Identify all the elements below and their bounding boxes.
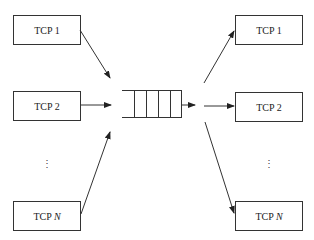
right-node-tcp-2: TCP 2 xyxy=(236,93,303,122)
right-ellipsis: ⋮ xyxy=(264,158,274,169)
node-label-suffix: N xyxy=(275,211,284,222)
left-ellipsis: ⋮ xyxy=(42,158,52,169)
left-node-tcp-n: TCP N xyxy=(14,202,81,231)
svg-text:TCP N: TCP N xyxy=(255,211,283,222)
node-label-prefix: TCP xyxy=(255,211,275,222)
right-node-tcp-1: TCP 1 xyxy=(236,16,303,45)
svg-text:TCP N: TCP N xyxy=(33,211,61,222)
arrow-tcp1-to-queue xyxy=(80,30,110,78)
node-label-prefix: TCP xyxy=(33,211,53,222)
svg-text:TCP 1: TCP 1 xyxy=(256,25,281,36)
node-label: TCP 1 xyxy=(34,25,59,36)
svg-text:TCP 1: TCP 1 xyxy=(34,25,59,36)
left-node-tcp-1: TCP 1 xyxy=(14,16,81,45)
node-label: TCP 1 xyxy=(256,25,281,36)
arrow-queue-to-tcpn xyxy=(205,122,234,213)
svg-text:TCP 2: TCP 2 xyxy=(256,102,281,113)
right-node-tcp-n: TCP N xyxy=(236,202,303,231)
node-label: TCP 2 xyxy=(256,102,281,113)
queue xyxy=(122,90,182,118)
node-label-suffix: N xyxy=(53,211,62,222)
arrow-tcpn-to-queue xyxy=(81,132,110,214)
node-label: TCP 2 xyxy=(34,101,59,112)
left-node-tcp-2: TCP 2 xyxy=(14,92,81,121)
tcp-queue-diagram: TCP 1 TCP 2 ⋮ TCP N TCP 1 TCP 2 ⋮ TCP N xyxy=(0,0,314,240)
svg-text:TCP 2: TCP 2 xyxy=(34,101,59,112)
arrow-queue-to-tcp1 xyxy=(204,31,234,83)
